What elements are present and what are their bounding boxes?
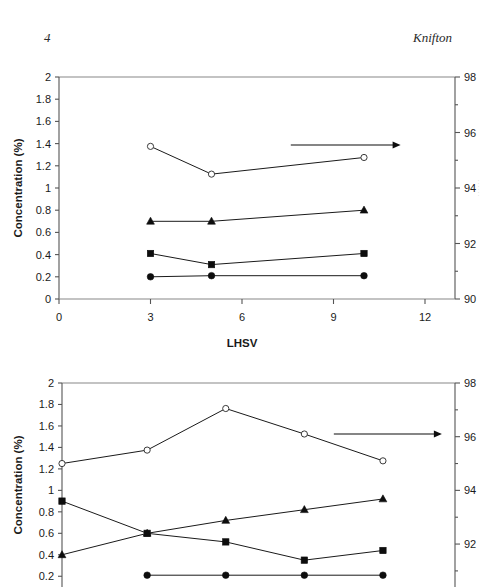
y-tick-label: 0.4	[36, 249, 51, 261]
series-line	[151, 276, 365, 277]
y2-tick-label: 98	[464, 377, 476, 389]
data-point-filled-circle	[147, 274, 154, 281]
data-point-filled-square	[59, 498, 65, 504]
axis-pointer-arrow	[334, 431, 442, 438]
y-axis-title: Concentration (%)	[12, 138, 24, 237]
series-line	[151, 146, 365, 174]
data-point-filled-square	[208, 261, 214, 267]
y-tick-label: 0.8	[36, 204, 51, 216]
y2-tick-label: 92	[464, 238, 476, 250]
data-point-open-circle	[223, 405, 229, 411]
figure-top-svg: 00.20.40.60.811.21.41.61.829092949698036…	[0, 62, 484, 352]
data-point-filled-triangle	[360, 206, 368, 213]
x-tick-label: 3	[147, 311, 153, 323]
data-point-open-circle	[380, 458, 386, 464]
y-tick-label: 1.4	[39, 441, 54, 453]
series-filled-square-series	[147, 250, 367, 267]
y-tick-label: 1.8	[39, 398, 54, 410]
series-line	[62, 501, 383, 560]
data-point-filled-square	[223, 539, 229, 545]
data-point-filled-circle	[222, 572, 229, 579]
y2-tick-label: 96	[464, 431, 476, 443]
data-point-filled-triangle	[147, 217, 155, 224]
x-tick-label: 9	[330, 311, 336, 323]
series-filled-circle-series	[144, 572, 386, 579]
y-tick-label: 0.4	[39, 549, 54, 561]
y-tick-label: 1.2	[36, 160, 51, 172]
y-tick-label: 0.6	[39, 527, 54, 539]
y-tick-label: 0.2	[36, 271, 51, 283]
data-point-filled-triangle	[379, 495, 387, 502]
y-axis-title: Concentration (%)	[12, 435, 24, 534]
x-tick-label: 6	[239, 311, 245, 323]
series-open-circle-series	[147, 143, 367, 177]
series-line	[62, 499, 383, 555]
y-tick-label: 1.2	[39, 463, 54, 475]
series-line	[62, 409, 383, 464]
figure-bottom-svg: 0.20.40.60.811.21.41.61.8292949698Concen…	[0, 368, 484, 587]
y2-tick-label: 92	[464, 538, 476, 550]
y-tick-label: 1.6	[36, 115, 51, 127]
series-filled-circle-series	[147, 272, 367, 280]
y-tick-label: 1	[48, 484, 54, 496]
series-filled-square-series	[59, 498, 386, 563]
data-point-open-circle	[301, 431, 307, 437]
y-tick-label: 1.6	[39, 420, 54, 432]
series-open-circle-series	[59, 405, 386, 466]
data-point-filled-circle	[144, 572, 151, 579]
figure-bottom-chart: 0.20.40.60.811.21.41.61.8292949698Concen…	[0, 368, 484, 587]
y-tick-label: 0.8	[39, 506, 54, 518]
page-number: 4	[44, 30, 51, 46]
data-point-open-circle	[361, 154, 367, 160]
series-filled-triangle-series	[147, 206, 368, 224]
x-tick-label: 12	[419, 311, 431, 323]
y2-tick-label: 90	[464, 293, 476, 305]
series-line	[151, 253, 365, 264]
cropped-secondary-axis-label: · · · · · ·	[475, 179, 481, 196]
y-tick-label: 2	[45, 71, 51, 83]
y-tick-label: 1	[45, 182, 51, 194]
data-point-filled-square	[380, 547, 386, 553]
y-tick-label: 0.6	[36, 226, 51, 238]
data-point-filled-circle	[208, 272, 215, 279]
y-tick-label: 2	[48, 377, 54, 389]
data-point-filled-square	[361, 250, 367, 256]
y2-tick-label: 96	[464, 127, 476, 139]
data-point-open-circle	[144, 447, 150, 453]
y-tick-label: 0	[45, 293, 51, 305]
axis-pointer-arrow	[291, 142, 401, 149]
data-point-filled-square	[147, 250, 153, 256]
data-point-filled-circle	[301, 572, 308, 579]
x-axis-title: LHSV	[227, 337, 258, 349]
running-head: 4 Knifton	[0, 30, 484, 52]
y-tick-label: 0.2	[39, 570, 54, 582]
figure-top-chart: 00.20.40.60.811.21.41.61.829092949698036…	[0, 62, 484, 352]
series-line	[151, 210, 365, 221]
series-filled-triangle-series	[58, 495, 387, 558]
data-point-filled-circle	[361, 272, 368, 279]
data-point-open-circle	[59, 460, 65, 466]
y-tick-label: 1.4	[36, 138, 51, 150]
arrow-head-icon	[393, 142, 401, 149]
arrow-head-icon	[434, 431, 442, 438]
data-point-filled-square	[301, 557, 307, 563]
data-point-open-circle	[208, 171, 214, 177]
data-point-filled-circle	[380, 572, 387, 579]
y-tick-label: 1.8	[36, 93, 51, 105]
x-tick-label: 0	[56, 311, 62, 323]
data-point-open-circle	[147, 143, 153, 149]
running-head-author: Knifton	[413, 30, 452, 46]
y2-tick-label: 98	[464, 71, 476, 83]
y2-tick-label: 94	[464, 484, 476, 496]
